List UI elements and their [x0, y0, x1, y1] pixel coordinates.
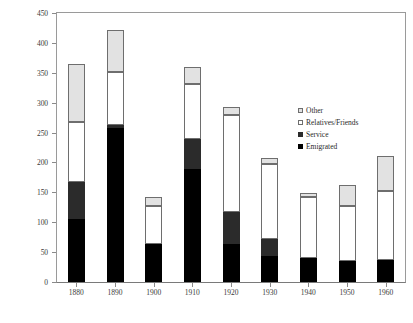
y-axis-tick-label: 50 [4, 248, 48, 257]
bar-segment-other[interactable] [145, 197, 162, 206]
bar-segment-other[interactable] [261, 158, 278, 164]
x-axis-tick-label: 1960 [378, 288, 393, 297]
legend-item-other[interactable]: Other [298, 105, 390, 116]
bar-segment-emigrated[interactable] [107, 128, 124, 282]
bar-segment-emigrated[interactable] [300, 258, 317, 282]
legend-item-label: Emigrated [306, 142, 337, 151]
bar-segment-relatives[interactable] [223, 115, 240, 212]
x-axis-tick-label: 1880 [69, 288, 84, 297]
bar-segment-relatives[interactable] [184, 84, 201, 139]
bar-segment-service[interactable] [107, 125, 124, 128]
bar-segment-service[interactable] [184, 139, 201, 169]
bar-segment-emigrated[interactable] [261, 256, 278, 282]
x-axis-tick-mark [231, 283, 232, 287]
legend-item-label: Other [306, 106, 323, 115]
bar-segment-relatives[interactable] [145, 206, 162, 244]
chart-legend: OtherRelatives/FriendsServiceEmigrated [298, 103, 390, 155]
x-axis-tick-mark [386, 283, 387, 287]
x-axis-tick-mark [308, 283, 309, 287]
y-axis-tick-mark [52, 13, 56, 14]
x-axis-tick-mark [192, 283, 193, 287]
bar-segment-emigrated[interactable] [68, 219, 85, 282]
bar-segment-other[interactable] [300, 193, 317, 197]
y-axis-tick-label: 100 [4, 218, 48, 227]
bar-segment-relatives[interactable] [377, 191, 394, 260]
bar-group [223, 13, 240, 282]
y-axis-tick-mark [52, 162, 56, 163]
bar-group [145, 13, 162, 282]
bar-group [184, 13, 201, 282]
y-axis-tick-label: 350 [4, 68, 48, 77]
legend-item-label: Service [306, 130, 329, 139]
legend-item-emigrated[interactable]: Emigrated [298, 141, 390, 152]
bar-segment-service[interactable] [261, 239, 278, 256]
y-axis-tick-mark [52, 192, 56, 193]
bar-segment-emigrated[interactable] [145, 244, 162, 282]
y-axis-tick-mark [52, 222, 56, 223]
bar-group [261, 13, 278, 282]
bar-segment-relatives[interactable] [339, 206, 356, 262]
y-axis-tick-label: 300 [4, 98, 48, 107]
y-axis-tick-label: 200 [4, 158, 48, 167]
bar-segment-emigrated[interactable] [223, 244, 240, 282]
bar-segment-relatives[interactable] [300, 197, 317, 259]
x-axis-tick-label: 1910 [185, 288, 200, 297]
bar-segment-relatives[interactable] [107, 72, 124, 125]
bar-segment-relatives[interactable] [261, 164, 278, 239]
x-axis-tick-label: 1900 [146, 288, 161, 297]
y-axis-tick-mark [52, 103, 56, 104]
bar-segment-relatives[interactable] [68, 122, 85, 182]
legend-swatch-other-icon [298, 108, 303, 113]
legend-swatch-relatives-icon [298, 120, 303, 125]
stacked-bar-chart: 050100150200250300350400450 188018901900… [0, 0, 413, 323]
x-axis-tick-label: 1940 [301, 288, 316, 297]
bar-segment-other[interactable] [107, 30, 124, 72]
y-axis-tick-mark [52, 43, 56, 44]
x-axis-tick-mark [76, 283, 77, 287]
legend-swatch-emigrated-icon [298, 144, 303, 149]
y-axis-tick-mark [52, 133, 56, 134]
y-axis-tick-mark [52, 282, 56, 283]
bar-segment-emigrated[interactable] [184, 169, 201, 282]
x-axis-tick-mark [115, 283, 116, 287]
y-axis-tick-label: 0 [4, 278, 48, 287]
legend-item-label: Relatives/Friends [306, 118, 359, 127]
bar-group [107, 13, 124, 282]
x-axis-tick-label: 1890 [108, 288, 123, 297]
bar-segment-other[interactable] [68, 64, 85, 123]
bar-segment-other[interactable] [377, 156, 394, 191]
bar-segment-other[interactable] [339, 185, 356, 205]
bar-segment-emigrated[interactable] [339, 261, 356, 282]
legend-item-service[interactable]: Service [298, 129, 390, 140]
x-axis-tick-mark [347, 283, 348, 287]
y-axis-tick-mark [52, 252, 56, 253]
x-axis-tick-mark [270, 283, 271, 287]
y-axis-tick-label: 250 [4, 128, 48, 137]
x-axis-tick-mark [154, 283, 155, 287]
legend-item-relatives[interactable]: Relatives/Friends [298, 117, 390, 128]
legend-swatch-service-icon [298, 132, 303, 137]
y-axis-tick-label: 400 [4, 38, 48, 47]
x-axis-tick-label: 1950 [340, 288, 355, 297]
x-axis: 188018901900191019201930194019501960 [57, 288, 405, 308]
x-axis-tick-label: 1920 [224, 288, 239, 297]
bar-segment-emigrated[interactable] [377, 260, 394, 282]
y-axis-tick-label: 450 [4, 9, 48, 18]
bar-segment-service[interactable] [223, 212, 240, 244]
bar-segment-other[interactable] [223, 107, 240, 114]
bar-group [68, 13, 85, 282]
y-axis: 050100150200250300350400450 [0, 0, 52, 323]
x-axis-tick-label: 1930 [262, 288, 277, 297]
bar-segment-service[interactable] [68, 182, 85, 219]
y-axis-tick-mark [52, 73, 56, 74]
bar-segment-other[interactable] [184, 67, 201, 83]
y-axis-tick-label: 150 [4, 188, 48, 197]
